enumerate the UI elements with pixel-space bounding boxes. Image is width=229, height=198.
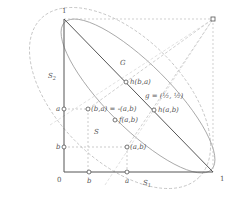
- point-h-ba: [124, 80, 128, 84]
- label-a-x: a: [125, 177, 129, 185]
- inner-ellipse: [42, 0, 229, 192]
- label-g: g = (½, ½): [145, 92, 184, 100]
- label-ba: (b,a) = -(a,b): [91, 105, 137, 113]
- label-h-ba: h(b,a): [130, 78, 151, 86]
- label-S: S: [94, 128, 99, 136]
- point-b-x: [87, 170, 91, 174]
- label-G: G: [120, 59, 126, 67]
- label-S1: S1: [143, 179, 151, 188]
- label-h-ab: h(a,b): [158, 106, 179, 114]
- label-S2: S2: [48, 72, 56, 81]
- diagram-canvas: 1 1 0 G S S1 S2 h(b,a) g = (½, ½) h(a,b)…: [0, 0, 229, 198]
- label-f: f(a,b): [118, 116, 138, 124]
- diagram: 1 1 0 G S S1 S2 h(b,a) g = (½, ½) h(a,b)…: [0, 0, 229, 198]
- label-origin: 0: [57, 176, 61, 184]
- label-b-x: b: [87, 177, 92, 185]
- point-D: [211, 17, 215, 21]
- label-ab: (a,b): [130, 143, 147, 151]
- label-b-y: b: [56, 143, 61, 151]
- point-a-x: [125, 170, 129, 174]
- label-right-one: 1: [220, 175, 224, 183]
- dashed-line-4: [105, 19, 213, 185]
- label-top-one: 1: [62, 7, 66, 15]
- label-a-y: a: [56, 105, 60, 113]
- point-a-y: [62, 107, 66, 111]
- point-f: [113, 118, 117, 122]
- outer-dashed-ellipse: [0, 0, 229, 198]
- point-b-y: [62, 145, 66, 149]
- point-h-ab: [152, 108, 156, 112]
- point-ba: [86, 107, 90, 111]
- point-ab: [125, 145, 129, 149]
